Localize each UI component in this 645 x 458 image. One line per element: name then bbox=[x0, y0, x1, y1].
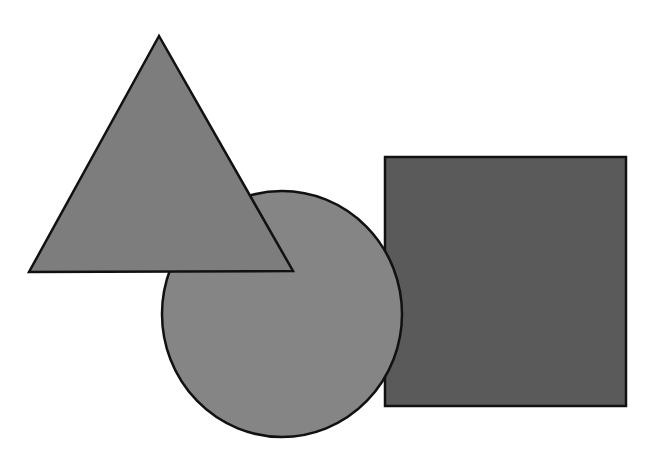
square-shape bbox=[385, 157, 626, 406]
shapes-diagram bbox=[0, 0, 645, 458]
